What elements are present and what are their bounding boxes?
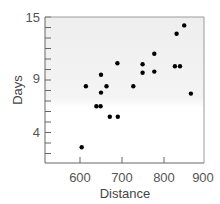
- x-axis-title: Distance: [100, 186, 151, 201]
- y-axis-labels: 15 9 4: [26, 10, 40, 140]
- y-tick-label-15: 15: [26, 10, 40, 25]
- x-tick-label-800: 800: [153, 170, 175, 185]
- x-tick-label-700: 700: [111, 170, 133, 185]
- x-tick-label-600: 600: [69, 170, 91, 185]
- data-point: [99, 73, 103, 77]
- data-point: [189, 91, 193, 95]
- data-point: [104, 84, 108, 88]
- data-point: [116, 115, 120, 119]
- data-point: [140, 62, 144, 66]
- data-point: [152, 69, 156, 73]
- y-tick-label-9: 9: [33, 71, 40, 86]
- data-point: [131, 84, 135, 88]
- data-point: [99, 90, 103, 94]
- x-axis-labels: 600 700 800 900: [69, 170, 214, 185]
- data-point: [80, 145, 84, 149]
- data-point: [108, 115, 112, 119]
- data-point: [182, 23, 186, 27]
- y-axis-title: Days: [10, 75, 25, 105]
- x-tick-label-900: 900: [192, 170, 214, 185]
- data-point: [174, 32, 178, 36]
- scatter-chart: 15 9 4 600 700 800 900 Distance Days: [0, 0, 220, 204]
- data-point: [84, 84, 88, 88]
- plot-area: [45, 17, 204, 163]
- data-point: [178, 64, 182, 68]
- data-point: [173, 64, 177, 68]
- data-point: [98, 104, 102, 108]
- data-point: [115, 61, 119, 65]
- data-point: [152, 52, 156, 56]
- data-point: [94, 104, 98, 108]
- y-tick-label-4: 4: [33, 125, 40, 140]
- data-point: [140, 71, 144, 75]
